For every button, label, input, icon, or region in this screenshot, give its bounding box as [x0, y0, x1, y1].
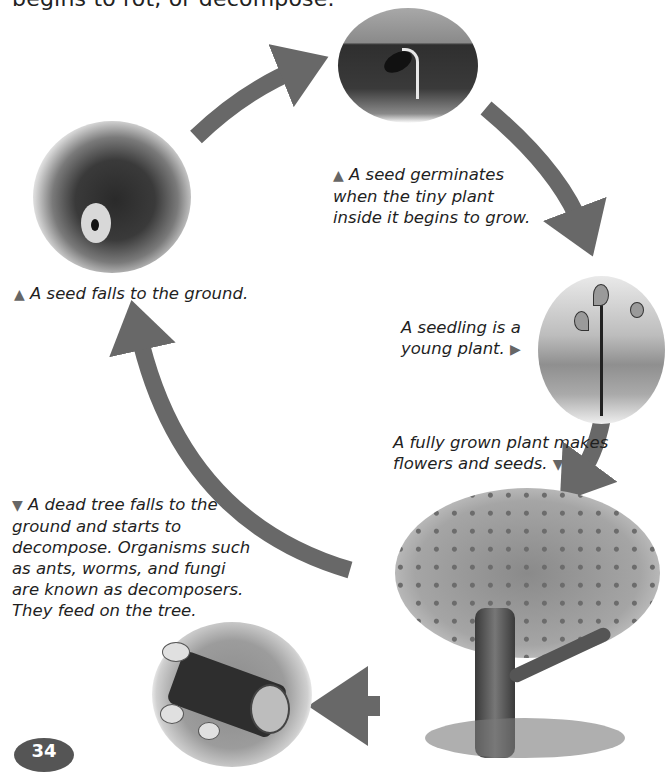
caption-germination: ▲ A seed germinates when the tiny plant … [333, 164, 530, 228]
down-triangle-icon: ▼ [12, 497, 23, 513]
leaf-icon [593, 284, 609, 306]
log-end [250, 684, 290, 734]
ground [425, 718, 625, 758]
arrow-to-germination [196, 68, 300, 137]
caption-decomposition: ▼ A dead tree falls to the ground and st… [12, 494, 250, 621]
mushroom-icon [162, 642, 190, 662]
fallen-log-illustration [152, 622, 312, 767]
sprout-root [402, 48, 419, 99]
seed-icon [91, 219, 99, 231]
caption-seed-falls: ▲ A seed falls to the ground. [14, 283, 248, 305]
up-triangle-icon: ▲ [14, 286, 25, 302]
page-number: 34 [14, 738, 74, 772]
rotting-fruit-illustration [33, 121, 191, 273]
tree-canopy [395, 488, 660, 658]
mushroom-icon [160, 704, 184, 724]
germinating-seed-illustration [338, 8, 478, 123]
leaf-icon [574, 311, 589, 331]
seedling-illustration [538, 276, 665, 424]
right-triangle-icon: ▶ [510, 341, 521, 357]
mushroom-icon [198, 722, 220, 740]
caption-seedling: A seedling is a young plant. ▶ [401, 317, 521, 360]
down-triangle-icon: ▼ [553, 456, 564, 472]
fruit-tree-illustration [395, 488, 665, 760]
up-triangle-icon: ▲ [333, 167, 344, 183]
leaf-icon [630, 302, 644, 318]
caption-mature-plant: A fully grown plant makes flowers and se… [393, 432, 608, 475]
seedling-stem [600, 296, 603, 416]
